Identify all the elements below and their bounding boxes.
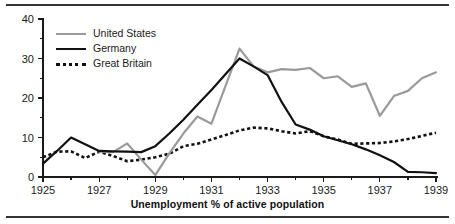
chart-caption: Unemployment % of active population xyxy=(0,198,455,210)
y-tick-label: 10 xyxy=(22,132,34,144)
x-tick-label: 1933 xyxy=(255,184,279,196)
x-tick-label: 1931 xyxy=(199,184,223,196)
bottom-divider-rule xyxy=(6,216,449,218)
legend-item-united-states: United States xyxy=(56,26,156,39)
y-tick-label: 20 xyxy=(22,92,34,104)
y-axis-ticks xyxy=(38,19,43,177)
legend-label-great-britain: Great Britain xyxy=(93,57,152,69)
legend-label-united-states: United States xyxy=(93,27,156,39)
chart-legend: United States Germany Great Britain xyxy=(56,26,156,69)
dotted-line-swatch-icon-great-britain xyxy=(56,57,86,69)
chart-figure: 010203040 192519271929193119331935193719… xyxy=(0,0,455,224)
x-tick-label: 1935 xyxy=(311,184,335,196)
x-axis-tick-labels: 19251927192919311933193519371939 xyxy=(31,184,448,196)
line-swatch-icon-germany xyxy=(56,42,86,54)
x-tick-label: 1929 xyxy=(143,184,167,196)
x-tick-label: 1925 xyxy=(31,184,55,196)
x-axis-ticks xyxy=(43,177,436,182)
y-tick-label: 30 xyxy=(22,53,34,65)
y-axis-tick-labels: 010203040 xyxy=(22,13,34,183)
y-tick-label: 40 xyxy=(22,13,34,25)
y-tick-label: 0 xyxy=(28,171,34,183)
x-tick-label: 1939 xyxy=(424,184,448,196)
legend-item-germany: Germany xyxy=(56,41,156,54)
legend-label-germany: Germany xyxy=(93,42,136,54)
series-line-germany xyxy=(43,59,436,174)
legend-item-great-britain: Great Britain xyxy=(56,56,156,69)
series-line-great-britain xyxy=(43,128,436,162)
x-tick-label: 1927 xyxy=(87,184,111,196)
line-swatch-icon-united-states xyxy=(56,27,86,39)
x-tick-label: 1937 xyxy=(368,184,392,196)
